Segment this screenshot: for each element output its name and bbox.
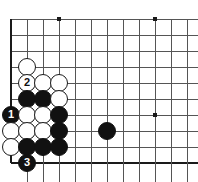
go-stone-black: [98, 122, 116, 140]
move-number-label: 3: [24, 157, 30, 168]
move-number-label: 2: [24, 77, 30, 88]
go-diagram: 213: [0, 0, 198, 182]
go-stone-black-move-3: 3: [18, 154, 36, 172]
star-point: [57, 17, 61, 21]
star-point: [153, 113, 157, 117]
move-number-label: 1: [8, 109, 14, 120]
go-stone-black: [50, 138, 68, 156]
star-point: [153, 17, 157, 21]
